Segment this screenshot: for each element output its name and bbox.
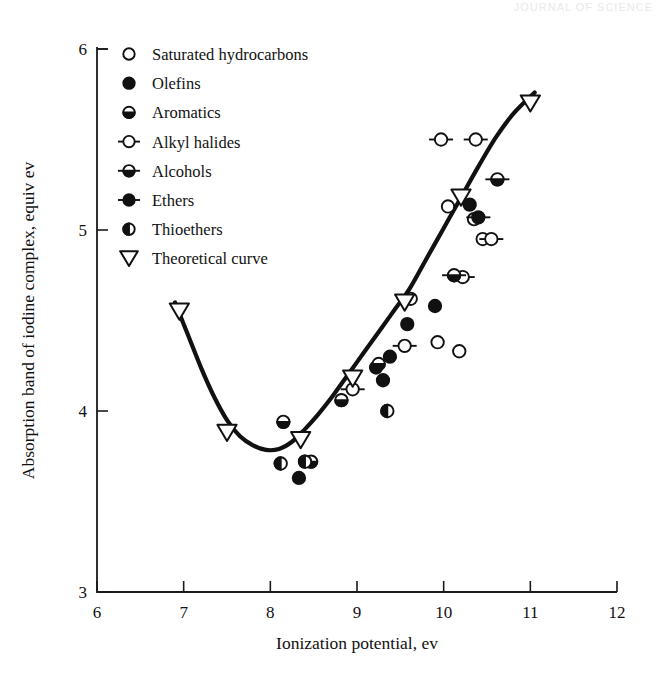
data-point [377, 374, 389, 386]
x-tick-label: 11 [522, 603, 538, 622]
legend-item[interactable]: Thioethers [123, 220, 222, 239]
circle-bottom-half [123, 171, 134, 177]
series-aromatics [277, 358, 385, 468]
data-point [464, 133, 488, 145]
marker-open-circle [442, 200, 454, 212]
circle-left-half [299, 455, 305, 467]
marker-bottom-half-circle [123, 107, 134, 118]
marker-open-circle-bar [118, 136, 140, 147]
circle-open [485, 233, 497, 245]
legend-item-label: Alcohols [152, 162, 212, 181]
marker-filled-circle [384, 351, 396, 363]
legend-item[interactable]: Alcohols [118, 162, 212, 181]
legend: Saturated hydrocarbonsOlefinsAromaticsAl… [118, 45, 308, 268]
data-point [384, 351, 396, 363]
legend-item-label: Olefins [152, 74, 201, 93]
marker-left-half-circle [123, 223, 134, 234]
marker-filled-circle [429, 300, 441, 312]
marker-left-half-circle [299, 455, 311, 467]
legend-item[interactable]: Olefins [123, 74, 200, 93]
legend-item[interactable]: Aromatics [123, 103, 220, 122]
circle-open [435, 133, 447, 145]
circle-open [453, 345, 465, 357]
legend-item-label: Ethers [152, 191, 194, 210]
circle-bottom-half [277, 422, 289, 428]
axis-lines [97, 47, 617, 592]
marker-half-circle-bar [118, 165, 140, 176]
marker-bottom-half-circle [372, 358, 384, 370]
x-tick-label: 6 [93, 603, 102, 622]
marker-bottom-half-circle [277, 416, 289, 428]
data-point [372, 358, 384, 370]
data-point [453, 345, 465, 357]
marker-open-down-triangle [170, 304, 189, 320]
legend-item[interactable]: Ethers [118, 191, 194, 210]
marker-open-circle [123, 48, 134, 59]
marker-open-circle-bar [429, 133, 453, 145]
data-point [429, 300, 441, 312]
legend-item[interactable]: Theoretical curve [120, 249, 268, 268]
marker-open-circle-bar [464, 133, 488, 145]
circle-open [123, 136, 134, 147]
circle-bottom-half [335, 400, 347, 406]
circle-filled [377, 374, 389, 386]
circle-left-half [275, 457, 281, 469]
legend-item[interactable]: Alkyl halides [118, 133, 240, 152]
data-point [431, 336, 443, 348]
circle-open [431, 336, 443, 348]
marker-open-down-triangle [120, 251, 138, 266]
data-point [401, 318, 413, 330]
y-tick-label: 5 [79, 221, 88, 240]
marker-open-down-triangle [217, 425, 236, 441]
marker-bottom-half-circle [335, 394, 347, 406]
legend-item-label: Alkyl halides [152, 133, 240, 152]
circle-left-half [123, 223, 129, 234]
circle-filled [123, 77, 134, 88]
marker-left-half-circle [275, 457, 287, 469]
chart-figure: JOURNAL OF SCIENCE 34566789101112Ionizat… [0, 0, 661, 684]
circle-bottom-half [372, 364, 384, 370]
circle-filled [429, 300, 441, 312]
marker-filled-circle [401, 318, 413, 330]
data-point [429, 133, 453, 145]
x-tick-label: 8 [266, 603, 275, 622]
data-point [299, 455, 311, 467]
circle-filled [401, 318, 413, 330]
x-axis-title: Ionization potential, ev [276, 633, 438, 653]
marker-half-circle-bar [485, 173, 509, 185]
circle-bottom-half [448, 275, 460, 281]
circle-filled [123, 194, 134, 205]
legend-item-label: Thioethers [152, 220, 223, 239]
circle-open [123, 48, 134, 59]
x-tick-label: 9 [353, 603, 362, 622]
data-point [442, 200, 454, 212]
data-point [393, 340, 417, 352]
marker-left-half-circle [381, 405, 393, 417]
y-tick-label: 6 [79, 40, 88, 59]
marker-filled-circle [123, 77, 134, 88]
legend-item-label: Saturated hydrocarbons [152, 45, 308, 64]
circle-open [442, 200, 454, 212]
data-point [293, 472, 305, 484]
data-point [277, 416, 289, 428]
marker-filled-circle [293, 472, 305, 484]
y-tick-label: 3 [79, 583, 88, 602]
y-axis-title: Absorption band of iodine complex, equiv… [18, 162, 38, 480]
faint-page-header: JOURNAL OF SCIENCE [514, 1, 653, 13]
marker-open-circle [431, 336, 443, 348]
circle-filled [293, 472, 305, 484]
data-point [381, 405, 393, 417]
data-point [170, 304, 189, 320]
circle-bottom-half [123, 112, 134, 118]
scatter-plot-canvas: 34566789101112Ionization potential, evAb… [0, 0, 661, 684]
legend-item[interactable]: Saturated hydrocarbons [123, 45, 308, 64]
circle-bottom-half [491, 179, 503, 185]
data-point [335, 394, 347, 406]
triangle-open-down [170, 304, 189, 320]
marker-filled-circle [377, 374, 389, 386]
y-tick-label: 4 [79, 402, 88, 421]
circle-left-half [381, 405, 387, 417]
triangle-open-down [217, 425, 236, 441]
data-point [485, 173, 509, 185]
triangle-open-down [120, 251, 138, 266]
